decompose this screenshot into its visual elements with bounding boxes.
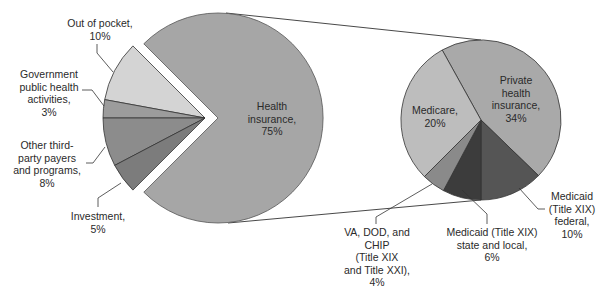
label-private: Private health insurance, 34% — [485, 74, 547, 124]
label-medicaid-state: Medicaid (Title XIX) state and local, 6% — [442, 226, 542, 264]
label-health-insurance: Health insurance, 75% — [242, 100, 302, 138]
callout-investment — [98, 183, 121, 207]
label-va-dod-chip: VA, DOD, and CHIP (Title XIX and Title X… — [335, 226, 419, 289]
label-medicare: Medicare, 20% — [410, 104, 460, 129]
callout-va-dod-chip — [376, 184, 432, 224]
callout-other-third-party — [86, 147, 105, 163]
label-medicaid-federal: Medicaid (Title XIX) federal, 10% — [544, 190, 600, 240]
callout-medicaid-federal — [519, 188, 545, 209]
label-out-of-pocket: Out of pocket, 10% — [60, 17, 140, 42]
callout-gov-public-health — [82, 90, 104, 106]
label-gov-public-health: Government public health activities, 3% — [14, 68, 84, 118]
label-investment: Investment, 5% — [66, 210, 130, 235]
callout-out-of-pocket — [97, 44, 113, 72]
label-other-third-party: Other third- party payers and programs, … — [8, 139, 86, 189]
